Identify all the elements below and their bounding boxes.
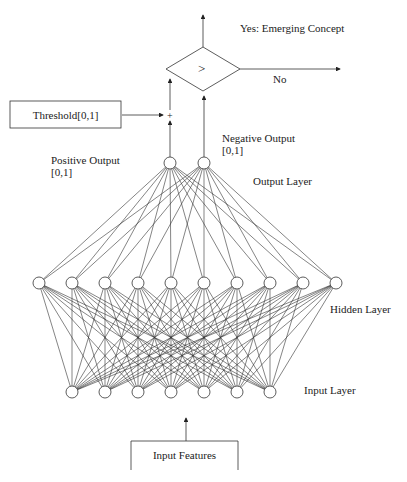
input-node: [264, 386, 276, 398]
plus-symbol: +: [167, 110, 173, 121]
input-node: [231, 386, 243, 398]
comparator-symbol: >: [198, 63, 205, 74]
connection-edge: [105, 163, 170, 283]
connection-edge: [72, 283, 303, 392]
positive-output-range: [0,1]: [51, 167, 72, 178]
input-node: [165, 386, 177, 398]
connection-edge: [138, 163, 170, 283]
connection-edge: [105, 283, 336, 392]
hidden-layer-label: Hidden Layer: [330, 304, 391, 315]
output-node: [164, 157, 176, 169]
input-node: [198, 386, 210, 398]
connection-edge: [39, 163, 204, 283]
output-node: [198, 157, 210, 169]
hidden-node: [231, 277, 243, 289]
no-label: No: [273, 74, 286, 85]
input-node: [66, 386, 78, 398]
connection-edge: [237, 283, 336, 392]
connection-edge: [170, 163, 237, 283]
hidden-node: [33, 277, 45, 289]
input-layer-label: Input Layer: [304, 385, 356, 396]
output-layer-label: Output Layer: [253, 176, 312, 187]
input-features-label: Input Features: [131, 449, 238, 461]
positive-output-label: Positive Output: [51, 155, 120, 166]
connection-edge: [39, 283, 72, 392]
connection-edge: [204, 163, 237, 283]
yes-label: Yes: Emerging Concept: [240, 23, 344, 34]
hidden-node: [330, 277, 342, 289]
connection-edge: [72, 163, 204, 283]
threshold-label: Threshold[0,1]: [10, 109, 121, 121]
connection-edge: [171, 283, 336, 392]
input-node: [132, 386, 144, 398]
connection-edge: [105, 163, 204, 283]
hidden-node: [66, 277, 78, 289]
negative-output-range: [0,1]: [222, 145, 243, 156]
hidden-node: [165, 277, 177, 289]
connection-edge: [39, 163, 170, 283]
connection-edge: [72, 163, 170, 283]
hidden-node: [132, 277, 144, 289]
hidden-node: [297, 277, 309, 289]
hidden-node: [198, 277, 210, 289]
input-node: [99, 386, 111, 398]
hidden-node: [264, 277, 276, 289]
hidden-node: [99, 277, 111, 289]
connection-edge: [270, 283, 336, 392]
negative-output-label: Negative Output: [222, 133, 295, 144]
network-connections: [39, 163, 336, 392]
